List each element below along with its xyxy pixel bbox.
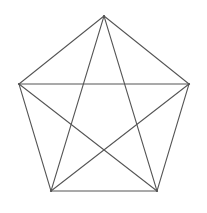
figure-background <box>0 0 207 213</box>
vertex-lower-left <box>50 190 52 192</box>
figure-canvas <box>0 0 207 213</box>
vertex-upper-left <box>18 83 20 85</box>
vertex-top <box>103 15 105 17</box>
vertex-lower-right <box>156 190 158 192</box>
vertex-upper-right <box>188 83 190 85</box>
complete-graph-k5-drawing <box>0 0 207 213</box>
